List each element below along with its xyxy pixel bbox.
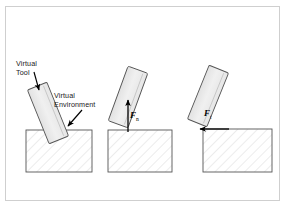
virtual-tool-label-line2: Tool [16,69,37,78]
panel-normal-force [108,66,172,172]
virtual-environment-leader-arrow [68,110,82,126]
virtual-environment-block-3 [203,129,272,172]
figure-canvas [0,0,288,209]
virtual-environment-label: Virtual Environment [54,92,95,109]
virtual-environment-label-line2: Environment [54,101,95,110]
virtual-tool-label: Virtual Tool [16,60,37,77]
virtual-environment-block-2 [108,130,172,172]
panel-tangential-force [187,65,272,172]
normal-force-subscript: n [136,116,139,122]
figure-container: Virtual Tool Virtual Environment Fn Ft [0,0,288,209]
panel-penetration [26,72,92,172]
environment-rect [203,129,272,172]
tangential-force-subscript: t [210,114,212,120]
normal-force-label: Fn [130,110,139,122]
tangential-force-label: Ft [204,108,212,120]
environment-rect [108,130,172,172]
